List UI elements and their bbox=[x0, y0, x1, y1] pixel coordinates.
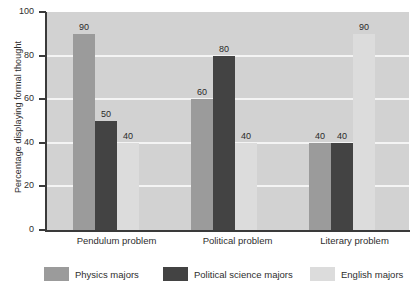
y-tick-label-0: 0 bbox=[2, 224, 34, 234]
bar-value-label-polisci-1: 80 bbox=[210, 44, 238, 54]
x-category-label-pendulum: Pendulum problem bbox=[54, 235, 179, 246]
x-category-label-political: Political problem bbox=[175, 235, 300, 246]
legend-swatch-physics-icon bbox=[44, 267, 69, 281]
y-tick-label-80: 80 bbox=[2, 50, 34, 60]
bar-physics-0 bbox=[73, 34, 95, 230]
y-tick-label-20: 20 bbox=[2, 180, 34, 190]
bar-value-label-polisci-0: 50 bbox=[92, 109, 120, 119]
x-axis-spine bbox=[45, 230, 410, 232]
bar-chart-figure: Percentage displaying formal thought 0 2… bbox=[0, 0, 418, 305]
bar-value-label-polisci-2: 40 bbox=[328, 131, 356, 141]
bar-english-2 bbox=[353, 34, 375, 230]
legend-swatch-english-icon bbox=[310, 267, 335, 281]
y-axis-spine bbox=[45, 12, 47, 231]
bar-value-label-physics-0: 90 bbox=[70, 22, 98, 32]
bar-physics-1 bbox=[191, 99, 213, 230]
bar-value-label-english-0: 40 bbox=[114, 131, 142, 141]
y-tick-label-60: 60 bbox=[2, 93, 34, 103]
y-tick-label-40: 40 bbox=[2, 137, 34, 147]
bar-polisci-2 bbox=[331, 143, 353, 230]
legend-label-english: English majors bbox=[341, 269, 403, 280]
legend-label-political-science: Political science majors bbox=[194, 269, 293, 280]
y-axis-title: Percentage displaying formal thought bbox=[13, 2, 23, 232]
bar-value-label-physics-1: 60 bbox=[188, 87, 216, 97]
bar-polisci-1 bbox=[213, 56, 235, 230]
bar-physics-2 bbox=[309, 143, 331, 230]
legend-label-physics: Physics majors bbox=[75, 269, 139, 280]
bar-value-label-english-1: 40 bbox=[232, 131, 260, 141]
legend-swatch-political-science-icon bbox=[163, 267, 188, 281]
plot-area: 905040608040404090 bbox=[47, 12, 409, 230]
bar-english-0 bbox=[117, 143, 139, 230]
x-category-label-literary: Literary problem bbox=[292, 235, 417, 246]
y-tick-label-100: 100 bbox=[2, 6, 34, 16]
bar-value-label-english-2: 90 bbox=[350, 22, 378, 32]
bar-english-1 bbox=[235, 143, 257, 230]
